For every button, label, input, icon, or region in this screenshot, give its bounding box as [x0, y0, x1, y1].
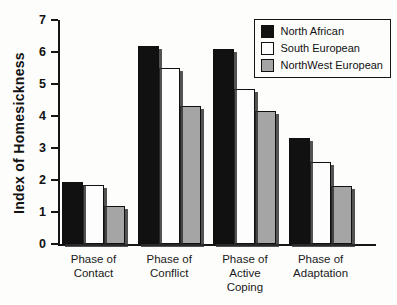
y-axis-tick	[51, 147, 58, 149]
bar-northwest-european	[255, 111, 276, 244]
bar-south-european	[159, 68, 180, 244]
legend-swatch	[261, 42, 274, 55]
category-label-line: Adaptation	[269, 266, 373, 280]
y-tick-label: 7	[24, 13, 46, 28]
legend-swatch	[261, 25, 274, 38]
legend-label: NorthWest European	[280, 59, 383, 72]
legend-label: North African	[280, 25, 344, 38]
legend-item-north-african: North African	[261, 25, 383, 38]
y-axis-tick	[51, 19, 58, 21]
y-axis-tick	[51, 211, 58, 213]
y-axis-tick	[51, 243, 58, 245]
homesickness-bar-chart: Index of Homesickness 01234567Phase ofCo…	[0, 0, 397, 305]
bar-northwest-european	[104, 206, 125, 244]
bar-south-european	[83, 185, 104, 244]
y-axis-tick	[51, 115, 58, 117]
y-tick-label: 4	[24, 109, 46, 124]
legend-swatch	[261, 59, 274, 72]
bar-north-african	[289, 138, 310, 244]
bar-north-african	[138, 46, 159, 244]
y-tick-label: 0	[24, 237, 46, 252]
legend-item-south-european: South European	[261, 42, 383, 55]
bar-south-european	[234, 89, 255, 244]
legend-label: South European	[280, 42, 360, 55]
bar-northwest-european	[180, 106, 201, 244]
y-tick-label: 5	[24, 77, 46, 92]
legend: North AfricanSouth EuropeanNorthWest Eur…	[254, 19, 391, 78]
bar-north-african	[62, 182, 83, 244]
y-tick-label: 3	[24, 141, 46, 156]
y-axis-tick	[51, 179, 58, 181]
category-label-line: Coping	[193, 280, 297, 294]
bar-south-european	[310, 162, 331, 244]
y-axis-tick	[51, 51, 58, 53]
y-tick-label: 6	[24, 45, 46, 60]
category-label-line: Phase of	[269, 252, 373, 266]
y-axis-tick	[51, 83, 58, 85]
category-label: Phase ofAdaptation	[269, 252, 373, 280]
y-tick-label: 2	[24, 173, 46, 188]
bar-north-african	[213, 49, 234, 244]
legend-item-northwest-european: NorthWest European	[261, 59, 383, 72]
bar-northwest-european	[331, 186, 352, 244]
y-tick-label: 1	[24, 205, 46, 220]
